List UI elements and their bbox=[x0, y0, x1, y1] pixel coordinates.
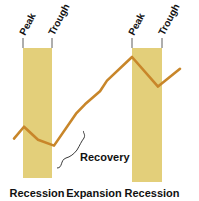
trough-label-1: Trough bbox=[46, 2, 72, 37]
recovery-label: Recovery bbox=[80, 151, 130, 163]
phase-label-recession-1: Recession bbox=[9, 187, 64, 199]
peak-label-2: Peak bbox=[126, 11, 147, 37]
peak-label-1: Peak bbox=[17, 11, 38, 37]
recession-band-1 bbox=[23, 48, 52, 178]
trough-label-2: Trough bbox=[156, 2, 182, 37]
phase-label-recession-2: Recession bbox=[124, 187, 179, 199]
phase-label-expansion: Expansion bbox=[66, 187, 122, 199]
business-cycle-diagram: Peak Trough Peak Trough Recovery Recessi… bbox=[0, 0, 199, 201]
recession-band-2 bbox=[132, 48, 162, 182]
